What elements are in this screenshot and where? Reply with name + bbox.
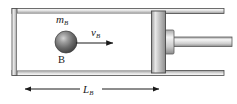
velocity-label: vB [91, 27, 100, 38]
mass-label: mB [56, 14, 68, 25]
cylinder-left-wall [12, 9, 17, 76]
ball-symbol: B [58, 54, 65, 65]
velocity-subscript: B [96, 32, 100, 39]
mass-subscript: B [64, 19, 68, 26]
ball-sphere [55, 31, 77, 53]
cylinder-top-wall [12, 9, 224, 14]
length-subscript: B [89, 89, 93, 96]
cylinder-bottom-wall [12, 71, 224, 76]
length-label: LB [83, 84, 93, 95]
ball-label: B [58, 55, 65, 66]
ball-b [55, 31, 77, 53]
cylinder-interior [17, 14, 152, 71]
piston-flange [165, 30, 174, 54]
piston-head [152, 11, 166, 73]
piston-assembly [152, 11, 233, 73]
physics-diagram-ball-in-cylinder: mB vB B LB [0, 0, 237, 104]
mass-symbol: m [56, 13, 64, 25]
piston-rod [173, 37, 232, 47]
diagram-canvas [0, 0, 237, 104]
